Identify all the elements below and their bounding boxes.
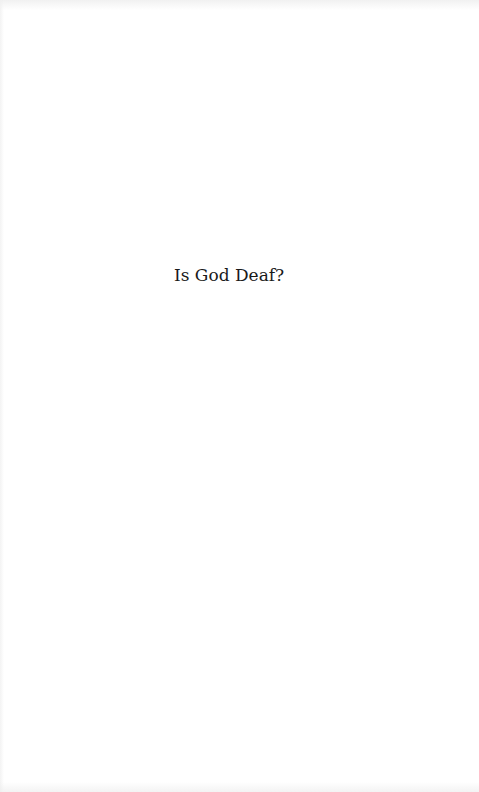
scan-shadow-bottom [0,782,479,792]
half-title: Is God Deaf? [174,263,284,287]
scan-shadow-top [0,0,479,10]
book-page: Is God Deaf? [0,0,479,792]
scan-shadow-left [0,0,4,792]
